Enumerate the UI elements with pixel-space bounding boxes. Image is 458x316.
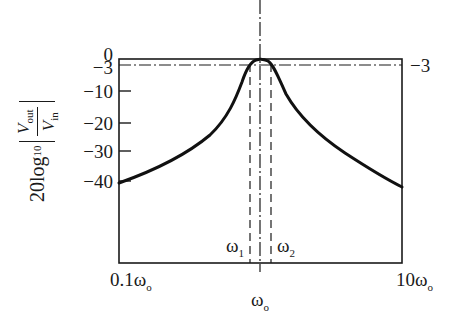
ylabel-prefix: 20log — [26, 156, 49, 202]
y-tick-minus3: −3 — [65, 58, 113, 77]
w2-label: ω2 — [277, 236, 295, 259]
w1-label: ω1 — [226, 236, 244, 259]
y-ticks — [119, 91, 131, 181]
y-tick-minus40: −40 — [65, 172, 113, 191]
ylabel-numerator: Vout — [14, 108, 37, 136]
ylabel-fraction: Vout Vin — [14, 108, 60, 136]
y-axis-label: 20log10 Vout Vin — [17, 55, 57, 245]
y-tick-minus10: −10 — [65, 82, 113, 101]
abs-bar-right — [19, 101, 55, 103]
right-minus3-label: −3 — [410, 56, 430, 75]
x-tick-10wo: 10ωo — [396, 270, 433, 293]
abs-bar-left — [19, 141, 55, 143]
ylabel-denominator: Vin — [38, 112, 60, 131]
y-tick-minus30: −30 — [65, 142, 113, 161]
x-tick-wo: ωo — [251, 290, 269, 313]
ylabel-base: 10 — [31, 145, 43, 156]
x-tick-0.1wo: 0.1ωo — [110, 270, 152, 293]
y-tick-minus20: −20 — [65, 114, 113, 133]
